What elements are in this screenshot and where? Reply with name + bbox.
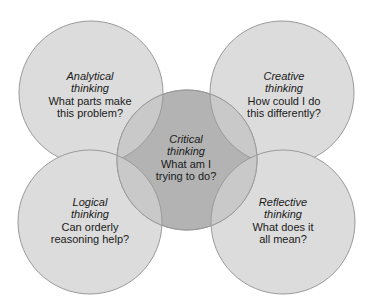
logical-title2: thinking	[20, 208, 160, 220]
reflective-question-line1: What does it	[213, 221, 353, 233]
analytical-question-line2: this problem?	[20, 107, 160, 119]
critical-title: Critical	[116, 133, 256, 145]
label-logical: Logical thinking Can orderly reasoning h…	[20, 196, 160, 245]
reflective-title: Reflective	[213, 196, 353, 208]
critical-title2: thinking	[116, 145, 256, 157]
logical-title: Logical	[20, 196, 160, 208]
creative-title2: thinking	[214, 82, 354, 94]
critical-question-line2: trying to do?	[116, 170, 256, 182]
logical-question-line2: reasoning help?	[20, 233, 160, 245]
label-creative: Creative thinking How could I do this di…	[214, 70, 354, 119]
label-critical: Critical thinking What am I trying to do…	[116, 133, 256, 182]
label-reflective: Reflective thinking What does it all mea…	[213, 196, 353, 245]
creative-question-line1: How could I do	[214, 95, 354, 107]
analytical-title: Analytical	[20, 70, 160, 82]
reflective-question-line2: all mean?	[213, 233, 353, 245]
critical-question-line1: What am I	[116, 158, 256, 170]
analytical-title2: thinking	[20, 82, 160, 94]
reflective-title2: thinking	[213, 208, 353, 220]
logical-question-line1: Can orderly	[20, 221, 160, 233]
analytical-question-line1: What parts make	[20, 95, 160, 107]
creative-title: Creative	[214, 70, 354, 82]
creative-question-line2: this differently?	[214, 107, 354, 119]
label-analytical: Analytical thinking What parts make this…	[20, 70, 160, 119]
